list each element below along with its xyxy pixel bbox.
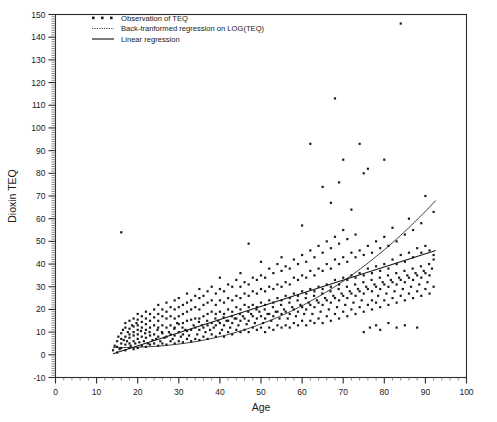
data-point [272,288,274,290]
data-point [330,247,332,249]
data-point [350,252,352,254]
data-point [137,329,139,331]
data-point [174,299,176,301]
data-point [132,331,134,333]
data-point [354,313,356,315]
data-point [215,324,217,326]
data-point [309,320,311,322]
data-point [243,281,245,283]
data-point [420,252,422,254]
data-point [272,306,274,308]
x-tick-label: 70 [338,387,348,397]
data-point [132,325,134,327]
data-point [250,313,252,315]
data-point [178,306,180,308]
data-point [295,315,297,317]
data-point [264,331,266,333]
data-point [289,268,291,270]
data-point [424,245,426,247]
y-tick-label: 0 [41,350,46,360]
data-point [309,304,311,306]
data-point [285,311,287,313]
data-point [362,281,364,283]
data-point [130,345,132,347]
data-point [395,272,397,274]
data-point [280,313,282,315]
data-point [242,315,244,317]
data-point [276,263,278,265]
data-point [194,338,196,340]
data-point [322,252,324,254]
data-point [260,326,262,328]
data-point [301,290,303,292]
data-point [320,311,322,313]
data-point [396,302,398,304]
data-point [198,288,200,290]
data-point [361,299,363,301]
data-point [128,333,130,335]
y-tick-label: 90 [36,146,46,156]
data-point [391,281,393,283]
legend: Observation of TEQBack-tranformed regres… [92,14,265,44]
y-tick-label: 40 [36,259,46,269]
data-point [145,323,147,325]
x-tick-label: 60 [297,387,307,397]
data-point [180,336,182,338]
data-point [359,306,361,308]
data-point [287,317,289,319]
data-point [156,329,158,331]
data-point [375,324,377,326]
data-point [227,283,229,285]
data-point [402,288,404,290]
data-point [309,143,311,145]
y-tick-label: 70 [36,191,46,201]
data-point [194,317,196,319]
data-point [305,292,307,294]
data-point [186,302,188,304]
data-point [124,326,126,328]
data-point [132,348,134,350]
data-point [326,263,328,265]
data-point [169,340,171,342]
data-point [149,344,151,346]
data-point [202,315,204,317]
data-point [359,272,361,274]
data-point [379,288,381,290]
data-point [371,299,373,301]
data-point [390,279,392,281]
data-point [428,263,430,265]
data-point [153,316,155,318]
y-tick-label: 50 [36,236,46,246]
data-point [186,338,188,340]
data-point [288,302,290,304]
data-point [159,340,161,342]
data-point [289,283,291,285]
data-point [404,299,406,301]
plot-frame [56,15,467,378]
data-point [428,249,430,251]
data-point [396,240,398,242]
data-point [344,304,346,306]
data-point [313,322,315,324]
data-point [264,317,266,319]
data-point [280,286,282,288]
data-point [149,326,151,328]
data-point [338,263,340,265]
data-point [408,292,410,294]
data-point [313,274,315,276]
data-point [346,238,348,240]
data-point [215,292,217,294]
data-point [383,159,385,161]
data-point [149,331,151,333]
scatter-points [112,22,435,353]
data-point [165,302,167,304]
data-point [367,268,369,270]
data-point [420,277,422,279]
data-point [278,317,280,319]
data-point [338,299,340,301]
data-point [202,304,204,306]
y-tick-label: 20 [36,304,46,314]
data-point [124,336,126,338]
chart-svg: -100102030405060708090100110120130140150… [0,0,497,422]
data-point [264,308,266,310]
